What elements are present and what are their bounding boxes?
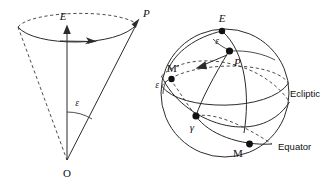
label-sphere-E: E	[218, 12, 226, 24]
label-sphere-M: M	[233, 147, 243, 159]
label-sphere-Mprime: M'	[167, 62, 179, 74]
point-gamma	[192, 112, 199, 119]
label-cone-E: E	[59, 10, 67, 22]
celestial-sphere-group: E P M' γ M ε ε Ecliptic Equator	[155, 12, 320, 159]
label-cone-epsilon: ε	[75, 98, 79, 108]
cone-base-back-arc	[18, 13, 137, 27]
label-equator: Equator	[278, 141, 311, 152]
precession-cone-group: E P ε O	[18, 7, 150, 179]
arc-gamma-to-M	[196, 116, 272, 144]
label-sphere-epsilon-P: ε	[215, 36, 219, 46]
equator-back	[162, 61, 290, 102]
diagram-svg: E P ε O	[0, 0, 330, 183]
label-cone-P: P	[142, 7, 150, 19]
label-ecliptic: Ecliptic	[290, 88, 320, 99]
ecliptic-back	[162, 66, 289, 86]
figure-root: E P ε O	[0, 0, 330, 183]
point-P	[226, 47, 233, 54]
point-Mprime	[168, 76, 174, 82]
point-E	[219, 28, 225, 34]
pole-meridian-through-P	[222, 31, 246, 133]
precession-direction-arrow	[60, 37, 97, 44]
cone-base-front-arc	[18, 24, 137, 42]
label-cone-O: O	[63, 167, 71, 179]
point-M	[246, 141, 253, 148]
label-sphere-gamma: γ	[190, 121, 195, 133]
cone-slant-left-dashed	[18, 27, 67, 160]
cone-axis-to-E	[63, 25, 71, 161]
label-sphere-P: P	[233, 56, 241, 68]
label-sphere-epsilon-gamma: ε	[155, 80, 159, 90]
